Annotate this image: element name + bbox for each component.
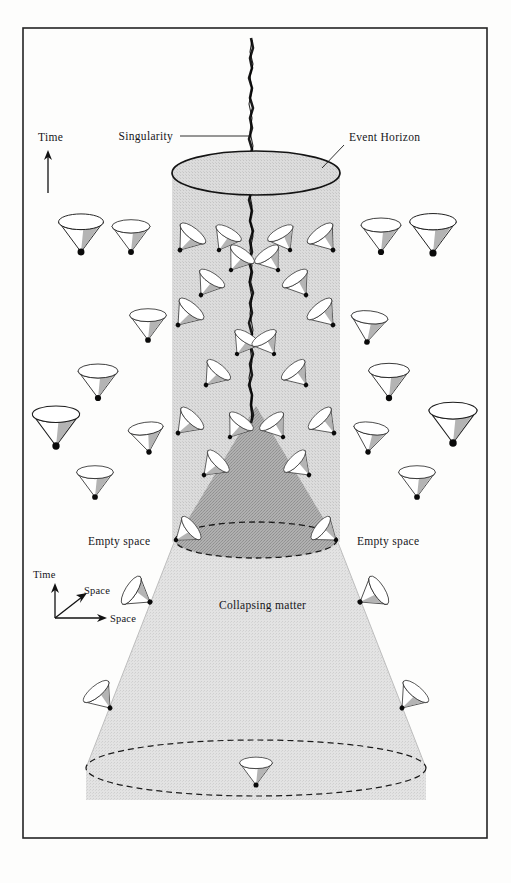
empty-space-right-label: Empty space	[357, 535, 419, 548]
axis-key-space-horizontal-label: Space	[110, 613, 136, 624]
event-horizon-ellipse	[172, 151, 340, 195]
singularity-label: Singularity	[119, 130, 173, 143]
event-horizon-label: Event Horizon	[349, 131, 420, 143]
empty-space-left-label: Empty space	[88, 535, 150, 548]
collapsing-matter-label: Collapsing matter	[219, 599, 306, 612]
axis-key-time-label: Time	[33, 569, 56, 580]
figure-root: Time Singularity Event Horizon Empty spa…	[0, 0, 511, 883]
axis-key-space-diagonal-label: Space	[84, 585, 110, 596]
time-label-top: Time	[38, 131, 63, 143]
spacetime-diagram: Time Singularity Event Horizon Empty spa…	[0, 0, 511, 883]
